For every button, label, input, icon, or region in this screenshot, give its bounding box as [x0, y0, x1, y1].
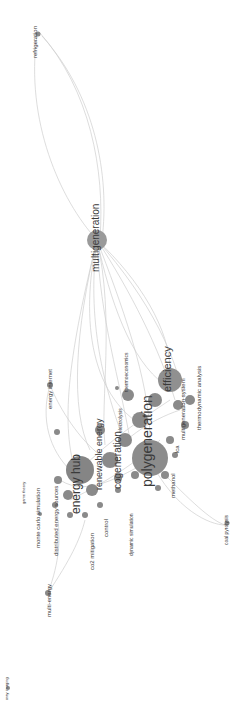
nodes	[6, 32, 230, 691]
node-label-game-theory[interactable]: game theory	[22, 482, 26, 504]
node-label-cogeneration[interactable]: cogeneration	[113, 431, 123, 489]
node-label-energy-hub[interactable]: energy hub	[70, 454, 82, 514]
node-label-efficiency[interactable]: efficiency	[162, 346, 173, 392]
node-label-xray-imaging[interactable]: xray imaging	[5, 677, 9, 700]
node-label-lca[interactable]: lca	[174, 445, 180, 453]
node-label-dynamic-simulation[interactable]: dynamic simulation	[129, 513, 134, 556]
node-label-methanol[interactable]: methanol	[170, 473, 176, 498]
node-label-multigeneration-system[interactable]: multigeneration system	[180, 378, 186, 440]
network-canvas	[0, 0, 234, 715]
node-label-control[interactable]: control	[103, 519, 109, 537]
node-label-polygeneration[interactable]: polygeneration	[140, 395, 154, 487]
node-label-thermoeconomics[interactable]: thermoeconomics	[124, 353, 129, 392]
node-label-refrigeration[interactable]: refrigeration	[32, 26, 38, 58]
node-label-energy-internet[interactable]: energy internet	[47, 369, 53, 409]
node-label-distributed-energy-sources[interactable]: distributed energy sources	[53, 486, 59, 556]
node-label-multigeneration[interactable]: multigeneration	[91, 204, 101, 272]
node-label-electrolysis[interactable]: electrolysis	[118, 408, 123, 433]
edges	[35, 33, 225, 593]
node-label-multi-energy[interactable]: multi-energy	[46, 584, 52, 617]
node-label-co2-mitigation[interactable]: co2 mitigation	[89, 533, 95, 570]
node-label-thermodynamic-analysis[interactable]: thermodynamic analysis	[196, 366, 202, 430]
node-label-coal-pyrolysis[interactable]: coal pyrolysis	[224, 515, 229, 545]
node-label-renewable-energy[interactable]: renewable energy	[95, 418, 104, 490]
node-label-monte-carlo-simulation[interactable]: monte carlo simulation	[35, 488, 41, 548]
